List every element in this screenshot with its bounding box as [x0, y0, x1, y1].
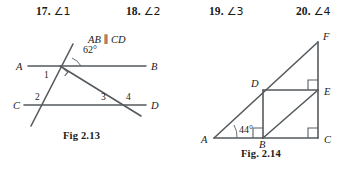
point-label-b: B: [151, 61, 158, 72]
problem-18-number: 18.: [126, 5, 141, 17]
point-label-f: F: [322, 31, 330, 42]
figure-2-13: AB ∥ CD 62° 1 2 3 4 A B C D: [0, 26, 175, 177]
problem-17-angle: ∠1: [54, 5, 71, 18]
problem-19-angle: ∠3: [227, 5, 244, 18]
figure-2-13-caption: Fig 2.13: [0, 130, 169, 141]
point-label-c: C: [13, 100, 21, 111]
figure-2-14: 44° A B C D E F Fig. 2.14: [175, 26, 347, 177]
right-angle-mark-b: [253, 128, 263, 138]
point-label-a: A: [15, 61, 23, 72]
problem-number-row: 17.∠1 18.∠2 19.∠3 20.∠4: [0, 0, 347, 24]
point-label-a: A: [200, 134, 208, 145]
angle-measure-44-label: 44°: [239, 124, 253, 135]
figure-2-14-drawing: 44° A B C D E F: [175, 26, 347, 148]
parallel-notation-label: AB ∥ CD: [88, 33, 126, 45]
problem-18-angle: ∠2: [144, 5, 161, 18]
transversal-line: [31, 44, 73, 126]
point-label-d: D: [250, 78, 259, 89]
angle-4-label: 4: [126, 92, 131, 102]
problem-19: 19.∠3: [209, 5, 244, 18]
point-label-b: B: [259, 139, 266, 148]
angle-measure-62-label: 62°: [83, 44, 97, 55]
problem-20-number: 20.: [296, 5, 311, 17]
problem-20-angle: ∠4: [314, 5, 331, 18]
angle-arc-44: [234, 125, 237, 138]
angle-1-label: 1: [44, 70, 49, 80]
point-label-c: C: [324, 134, 332, 145]
angle-2-label: 2: [35, 92, 40, 102]
figure-2-14-caption: Fig. 2.14: [175, 148, 347, 159]
worksheet-page: 17.∠1 18.∠2 19.∠3 20.∠4 AB ∥ CD 62°: [0, 0, 347, 177]
problem-17-number: 17.: [36, 5, 51, 17]
angle-3-label: 3: [101, 92, 106, 102]
right-angle-mark-c: [308, 128, 318, 138]
slant-line: [60, 66, 141, 116]
segment-be: [263, 90, 318, 138]
problem-18: 18.∠2: [126, 5, 161, 18]
angle-arc-62: [72, 58, 81, 66]
point-label-d: D: [150, 100, 159, 111]
problem-17: 17.∠1: [36, 5, 71, 18]
problem-20: 20.∠4: [296, 5, 331, 18]
problem-19-number: 19.: [209, 5, 224, 17]
point-label-e: E: [323, 86, 331, 97]
right-angle-mark-e: [308, 80, 318, 90]
